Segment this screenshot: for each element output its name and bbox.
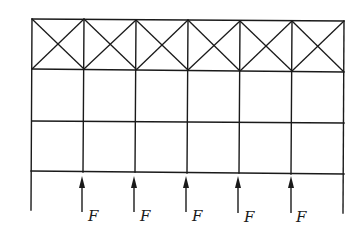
force-arrows: F F F F F (79, 176, 307, 226)
arrow-up-icon (131, 176, 137, 188)
force-arrow-5: F (288, 176, 307, 226)
arrow-up-icon (288, 176, 294, 188)
column-2 (135, 20, 136, 172)
force-arrow-3: F (183, 176, 203, 225)
force-label: F (295, 208, 307, 226)
column-right-outer (343, 21, 344, 213)
force-arrow-1: F (79, 176, 99, 225)
arrow-up-icon (79, 176, 85, 188)
arrow-up-icon (183, 176, 189, 188)
force-arrow-4: F (235, 176, 255, 226)
force-arrow-2: F (131, 176, 151, 225)
force-label: F (243, 208, 255, 226)
column-1 (83, 19, 84, 172)
column-4 (239, 21, 240, 173)
force-label: F (191, 207, 203, 225)
column-5 (291, 21, 292, 174)
arrow-up-icon (235, 176, 241, 188)
column-3 (187, 20, 188, 173)
force-label: F (87, 207, 99, 225)
frame-diagram: F F F F F (0, 0, 363, 233)
force-label: F (139, 207, 151, 225)
beam-middle (32, 121, 344, 123)
column-left-outer (31, 19, 32, 210)
